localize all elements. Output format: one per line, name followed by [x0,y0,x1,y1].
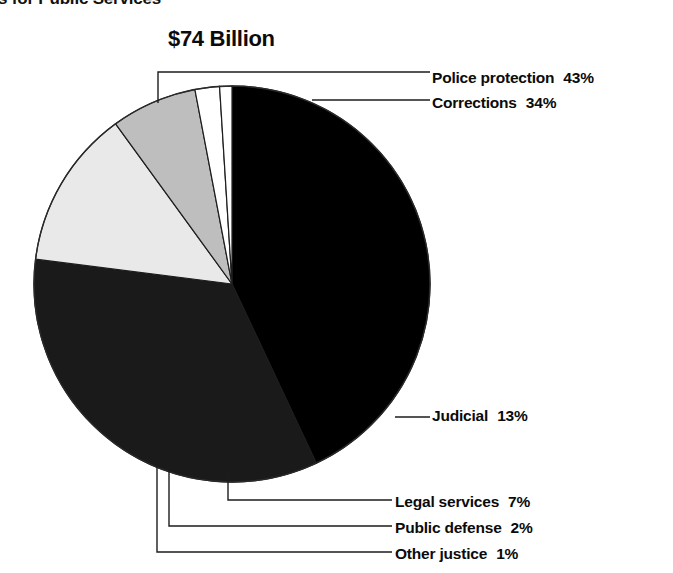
callout-police-percent: 43% [563,69,593,86]
callout-corrections-percent: 34% [526,94,556,111]
callout-police-protection: Police protection43% [432,69,594,87]
callout-other-label: Other justice [395,545,487,562]
chart-canvas: s for Public Services $74 Billion Police… [0,0,673,573]
callout-public-defense-percent: 2% [511,519,533,536]
callout-judicial-percent: 13% [497,407,527,424]
callout-police-label: Police protection [432,69,554,86]
callout-corrections-label: Corrections [432,94,517,111]
pie-slice-group [34,86,430,482]
callout-judicial-label: Judicial [432,407,488,424]
leader-line-other-justice [157,466,392,552]
callout-public-defense-label: Public defense [395,519,502,536]
callout-legal-services: Legal services7% [395,493,530,511]
callout-other-justice: Other justice1% [395,545,518,563]
callout-public-defense: Public defense2% [395,519,533,537]
callout-judicial: Judicial13% [432,407,528,425]
callout-corrections: Corrections34% [432,94,556,112]
callout-legal-percent: 7% [508,493,530,510]
callout-legal-label: Legal services [395,493,499,510]
callout-other-percent: 1% [496,545,518,562]
